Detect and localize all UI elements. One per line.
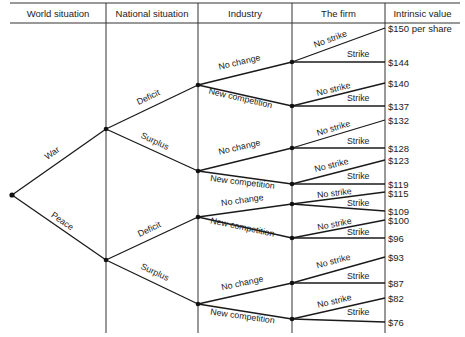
value-3: $140 — [388, 78, 409, 89]
label-strike-4: Strike — [347, 171, 370, 181]
value-13: $93 — [388, 252, 404, 263]
value-11: $100 — [388, 215, 409, 226]
value-16: $76 — [388, 317, 404, 328]
value-6: $128 — [388, 143, 409, 154]
value-4: $137 — [388, 101, 409, 112]
value-14: $87 — [388, 278, 404, 289]
label-strike-3: Strike — [347, 136, 370, 146]
header-world-situation: World situation — [10, 3, 106, 23]
label-strike-7: Strike — [347, 271, 370, 281]
value-12: $96 — [388, 233, 404, 244]
header-the-firm: The firm — [292, 3, 385, 23]
value-7: $123 — [388, 155, 409, 166]
value-1: $150 per share — [388, 23, 452, 34]
value-2: $144 — [388, 57, 409, 68]
label-strike-5: Strike — [347, 198, 370, 208]
header-national-situation: National situation — [106, 3, 198, 23]
value-9: $115 — [388, 188, 408, 199]
label-strike-2: Strike — [347, 93, 370, 103]
value-5: $132 — [388, 115, 409, 126]
value-15: $82 — [388, 293, 404, 304]
header-industry: Industry — [198, 3, 292, 23]
label-strike-8: Strike — [347, 307, 370, 317]
label-strike-1: Strike — [347, 49, 370, 59]
header-intrinsic-value: Intrinsic value — [385, 3, 460, 23]
label-strike-6: Strike — [347, 227, 370, 237]
